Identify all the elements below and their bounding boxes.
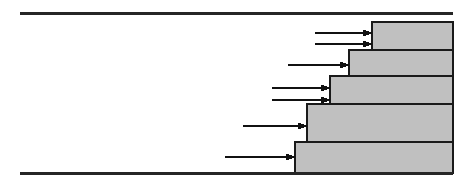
step-5-bottom <box>295 142 453 173</box>
diagram-canvas: Staircase step profile with horizontal f… <box>0 0 466 186</box>
step-1-top <box>372 22 453 50</box>
step-2 <box>349 50 453 76</box>
staircase-diagram <box>0 0 466 186</box>
step-3 <box>330 76 453 104</box>
step-4 <box>307 104 453 142</box>
